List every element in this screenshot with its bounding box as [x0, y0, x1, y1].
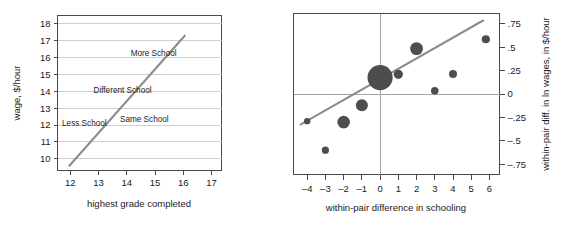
left-x-axis-title: highest grade completed	[87, 198, 191, 209]
right-chart-svg: .75.5.250–.25–.5–.75 –4–3–2–10123456 wit…	[285, 0, 569, 225]
two-panel-figure: 101112131415161718 121314151617 More Sch…	[0, 0, 569, 225]
left-y-axis-title: wage, $/hour	[11, 66, 22, 122]
x-tick-label: 15	[150, 177, 161, 188]
chart-annotation: More School	[131, 49, 177, 58]
x-tick-label: 4	[450, 183, 455, 194]
chart-annotation: Less School	[62, 119, 107, 128]
right-chart-panel: .75.5.250–.25–.5–.75 –4–3–2–10123456 wit…	[285, 0, 569, 225]
y-tick-label: –.25	[508, 112, 527, 123]
y-tick-label: 0	[508, 88, 513, 99]
y-tick-label: .75	[508, 18, 521, 29]
x-tick-label: 13	[93, 177, 104, 188]
scatter-point	[449, 70, 457, 78]
left-chart-panel: 101112131415161718 121314151617 More Sch…	[0, 0, 285, 225]
x-tick-label: 5	[469, 183, 474, 194]
y-tick-label: 11	[41, 136, 51, 147]
chart-annotation: Same School	[120, 115, 169, 124]
x-tick-label: –3	[320, 183, 331, 194]
y-tick-label: 13	[40, 103, 51, 114]
scatter-point	[304, 118, 310, 124]
y-tick-label: 10	[40, 153, 51, 164]
y-tick-label: 16	[40, 52, 51, 63]
left-x-axis: 121314151617	[65, 171, 217, 188]
right-y-axis-title: within-pair diff. in ln wages, in $/hour	[540, 17, 551, 172]
right-y-axis: .75.5.250–.25–.5–.75	[500, 18, 527, 169]
left-y-axis: 101112131415161718	[40, 18, 58, 164]
right-scatter-points	[304, 35, 490, 154]
x-tick-label: 0	[377, 183, 382, 194]
y-tick-label: 15	[40, 69, 51, 80]
left-annotations: More SchoolDifferent SchoolLess SchoolSa…	[62, 49, 177, 128]
y-tick-label: 14	[40, 86, 51, 97]
x-tick-label: 1	[396, 183, 401, 194]
right-x-axis: –4–3–2–10123456	[302, 175, 492, 194]
x-tick-label: 6	[487, 183, 492, 194]
y-tick-label: .25	[508, 65, 521, 76]
x-tick-label: 3	[432, 183, 437, 194]
y-tick-label: –.75	[508, 159, 527, 170]
y-tick-label: –.5	[508, 135, 521, 146]
x-tick-label: 16	[178, 177, 189, 188]
scatter-point	[367, 65, 392, 90]
scatter-point	[410, 42, 423, 55]
y-tick-label: .5	[508, 42, 516, 53]
x-tick-label: –1	[357, 183, 368, 194]
x-tick-label: 17	[206, 177, 217, 188]
x-tick-label: 14	[121, 177, 132, 188]
scatter-point	[431, 87, 439, 95]
x-tick-label: –4	[302, 183, 313, 194]
scatter-point	[337, 116, 350, 129]
y-tick-label: 18	[40, 18, 51, 29]
right-x-axis-title: within-pair difference in schooling	[325, 202, 466, 213]
scatter-point	[356, 99, 368, 111]
x-tick-label: 2	[414, 183, 419, 194]
y-tick-label: 12	[40, 119, 51, 130]
scatter-point	[394, 70, 403, 79]
x-tick-label: 12	[65, 177, 76, 188]
scatter-point	[482, 35, 490, 43]
y-tick-label: 17	[40, 35, 51, 46]
x-tick-label: –2	[338, 183, 349, 194]
left-chart-svg: 101112131415161718 121314151617 More Sch…	[0, 0, 285, 225]
scatter-point	[322, 147, 329, 154]
chart-annotation: Different School	[93, 86, 151, 95]
